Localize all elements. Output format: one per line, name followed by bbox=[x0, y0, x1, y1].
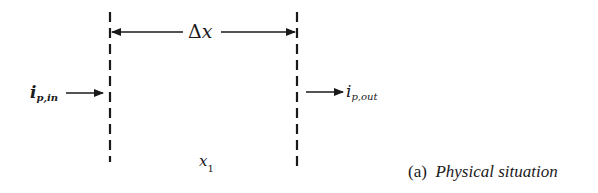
outflow-sub: p,out bbox=[351, 91, 377, 102]
delta-symbol: Δ bbox=[188, 20, 202, 42]
position-sub: 1 bbox=[207, 163, 213, 174]
position-label: x1 bbox=[199, 152, 214, 174]
delta-x-label: Δx bbox=[188, 20, 212, 42]
figure-caption: (a) Physical situation bbox=[408, 162, 558, 182]
caption-text: Physical situation bbox=[435, 162, 557, 181]
outflow-label: ip,out bbox=[346, 81, 378, 102]
inflow-label: ip,in bbox=[30, 82, 58, 103]
delta-var: x bbox=[202, 20, 213, 42]
caption-prefix: (a) bbox=[408, 162, 427, 181]
inflow-sub: p,in bbox=[36, 92, 58, 103]
